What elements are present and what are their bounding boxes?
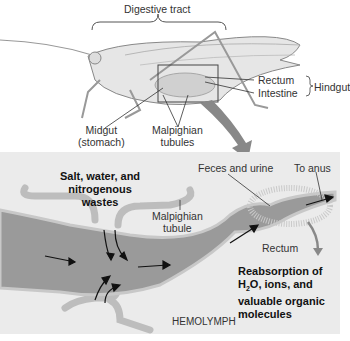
- tubule-line1: Malpighian: [152, 210, 203, 222]
- h-text: H: [238, 278, 246, 290]
- hemolymph-label: HEMOLYMPH: [172, 316, 236, 328]
- inputs-line3: wastes: [60, 196, 140, 209]
- inputs-label: Salt, water, and nitrogenous wastes: [60, 170, 140, 209]
- reabs-line1: Reabsorption of: [238, 265, 325, 278]
- feces-urine-label: Feces and urine: [198, 162, 273, 174]
- inputs-line2: nitrogenous: [60, 183, 140, 196]
- reabs-line3: valuable organic: [238, 295, 325, 308]
- o-ions-text: O, ions, and: [250, 278, 313, 290]
- reabs-line4: molecules: [238, 308, 325, 321]
- tubule-line2: tubule: [152, 222, 203, 234]
- inputs-line1: Salt, water, and: [60, 170, 140, 183]
- reabs-line2: H2O, ions, and: [238, 278, 325, 295]
- malpighian-tubule-label: Malpighian tubule: [152, 210, 203, 234]
- reabsorption-label: Reabsorption of H2O, ions, and valuable …: [238, 265, 325, 321]
- to-anus-label: To anus: [294, 162, 331, 174]
- rectum-detail-label: Rectum: [262, 242, 298, 254]
